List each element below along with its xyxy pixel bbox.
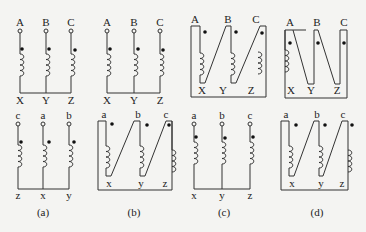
polarity-dot-icon: [72, 140, 76, 144]
end-label-X: X: [16, 94, 24, 106]
terminal-label-B: B: [224, 13, 231, 25]
terminal-label-b: b: [66, 109, 72, 121]
polarity-dot-icon: [234, 30, 238, 34]
terminal-label-C: C: [67, 16, 74, 28]
caption-c: (c): [218, 206, 231, 219]
polarity-dot-icon: [167, 123, 171, 127]
end-label-Z: Z: [68, 94, 75, 106]
terminal-label-A: A: [103, 16, 111, 28]
terminal-label-b: b: [314, 108, 320, 120]
end-label-x: x: [106, 177, 112, 189]
terminal-label-c: c: [16, 109, 21, 121]
polarity-dot-icon: [20, 47, 24, 51]
end-label-Y: Y: [307, 84, 315, 96]
panel-b-secondary-delta: a b c x y z: [98, 108, 176, 190]
delta-crosslink: [111, 121, 134, 176]
polarity-dot-icon: [47, 140, 51, 144]
polarity-dot-icon: [203, 30, 207, 34]
terminal-label-b: b: [219, 109, 225, 121]
terminal-label-C: C: [340, 16, 347, 28]
terminal-icon: [18, 29, 22, 33]
end-label-x: x: [40, 189, 46, 201]
terminal-icon: [67, 122, 71, 126]
polarity-dot-icon: [145, 123, 149, 127]
terminal-label-B: B: [42, 16, 49, 28]
end-label-y: y: [66, 189, 72, 201]
panel-d-primary-delta: A B C X Y Z: [285, 16, 348, 98]
polarity-dot-icon: [294, 123, 298, 127]
terminal-label-c: c: [164, 108, 169, 120]
polarity-dot-icon: [161, 48, 165, 52]
delta-crosslink: [236, 26, 260, 83]
caption-b: (b): [128, 206, 141, 219]
end-label-Z: Z: [248, 84, 255, 96]
terminal-label-c: c: [341, 108, 346, 120]
polarity-dot-icon: [350, 123, 354, 127]
terminal-label-A: A: [191, 13, 199, 25]
polarity-dot-icon: [194, 135, 198, 139]
panel-b-primary-star: A B C X Y Z: [103, 16, 165, 106]
polarity-dot-icon: [136, 47, 140, 51]
end-label-X: X: [103, 94, 111, 106]
polarity-dot-icon: [260, 31, 264, 35]
panel-d-secondary-delta: a b c x y z: [281, 108, 354, 190]
terminal-label-c: c: [248, 109, 253, 121]
terminal-label-C: C: [252, 13, 259, 25]
terminal-icon: [220, 122, 224, 126]
polarity-dot-icon: [323, 123, 327, 127]
terminal-label-b: b: [135, 108, 141, 120]
panel-c-secondary-star: a b c x y z: [191, 109, 255, 201]
terminal-label-a: a: [192, 109, 197, 121]
terminal-label-a: a: [102, 108, 107, 120]
end-label-Y: Y: [42, 94, 50, 106]
terminal-label-a: a: [284, 108, 289, 120]
end-label-X: X: [287, 84, 295, 96]
terminal-icon: [41, 122, 45, 126]
polarity-dot-icon: [251, 135, 255, 139]
terminal-label-C: C: [156, 16, 163, 28]
panel-a-primary-star: A B C X Y Z: [16, 16, 77, 106]
polarity-dot-icon: [73, 48, 77, 52]
end-label-z: z: [248, 189, 253, 201]
polarity-dot-icon: [316, 41, 320, 45]
polarity-dot-icon: [288, 41, 292, 45]
polarity-dot-icon: [47, 47, 51, 51]
terminal-label-A: A: [16, 16, 24, 28]
panel-a-secondary-star: c a b z x y: [16, 109, 76, 201]
polarity-dot-icon: [110, 122, 114, 126]
delta-crosslink: [323, 121, 342, 176]
caption-d: (d): [311, 206, 324, 219]
transformer-connection-diagram: A B C X Y Z c a: [0, 0, 366, 232]
terminal-label-B: B: [313, 16, 320, 28]
end-label-Y: Y: [219, 84, 227, 96]
terminal-label-B: B: [130, 16, 137, 28]
terminal-icon: [192, 122, 196, 126]
polarity-dot-icon: [108, 47, 112, 51]
end-label-Y: Y: [130, 94, 138, 106]
polarity-dot-icon: [342, 41, 346, 45]
delta-crosslink: [294, 121, 314, 176]
end-label-y: y: [138, 177, 144, 189]
terminal-label-a: a: [41, 109, 46, 121]
terminal-icon: [158, 29, 162, 33]
terminal-label-A: A: [286, 16, 294, 28]
panel-c-primary-delta: A B C X Y Z: [191, 13, 266, 97]
end-label-Z: Z: [334, 84, 341, 96]
end-label-z: z: [16, 189, 21, 201]
end-label-X: X: [198, 84, 206, 96]
terminal-icon: [69, 29, 73, 33]
terminal-icon: [248, 122, 252, 126]
end-label-x: x: [191, 189, 197, 201]
end-label-Z: Z: [157, 94, 164, 106]
end-label-z: z: [340, 177, 345, 189]
end-label-x: x: [289, 177, 295, 189]
delta-crosslink: [318, 30, 335, 84]
terminal-icon: [132, 29, 136, 33]
terminal-icon: [44, 29, 48, 33]
terminal-icon: [105, 29, 109, 33]
terminal-icon: [16, 122, 20, 126]
end-label-y: y: [219, 189, 225, 201]
delta-crosslink: [205, 26, 226, 83]
caption-a: (a): [37, 206, 50, 219]
delta-crosslink: [145, 121, 166, 176]
